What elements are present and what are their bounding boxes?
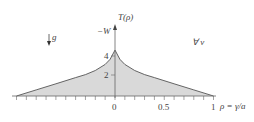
x-tick-label-05: 0.5 bbox=[158, 102, 170, 112]
y-axis-label: T(ρ) bbox=[118, 12, 133, 22]
gravity-arrow-icon bbox=[47, 41, 51, 46]
y-tick-label-4: 4 bbox=[104, 51, 109, 61]
y-tick-label-2: 2 bbox=[104, 70, 109, 80]
x-axis-label: ρ = γ/a bbox=[219, 101, 246, 111]
gravity-label: g bbox=[52, 32, 57, 42]
tension-chart: T(ρ) −W 2 4 g ∀ v 0 0.5 1 ρ = γ/a bbox=[0, 0, 254, 122]
forall-label: ∀ v bbox=[192, 37, 204, 47]
x-tick-label-1: 1 bbox=[211, 102, 216, 112]
y-top-label: −W bbox=[97, 26, 112, 36]
y-axis-arrow-icon bbox=[113, 24, 117, 30]
x-tick-label-0: 0 bbox=[112, 102, 117, 112]
